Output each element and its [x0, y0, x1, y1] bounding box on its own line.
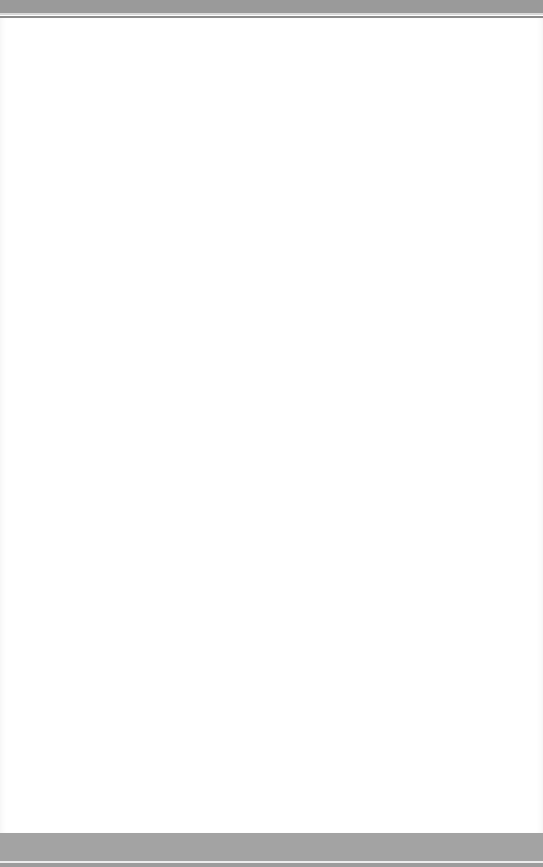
bottom-bar: [0, 833, 543, 861]
bottom-strip: [0, 863, 543, 867]
top-divider-light: [0, 13, 543, 15]
top-bar: [0, 0, 543, 13]
blank-content-area: [0, 18, 543, 833]
